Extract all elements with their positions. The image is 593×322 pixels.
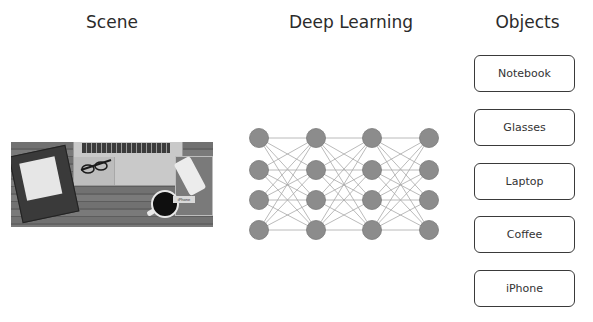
neural-network-diagram [240, 120, 450, 250]
glasses-icon [79, 158, 113, 174]
iphone-tag: iPhone [173, 196, 195, 203]
objects-heading: Objects [476, 12, 579, 32]
network-node [420, 221, 439, 240]
network-node [307, 129, 326, 148]
network-node [250, 191, 269, 210]
network-node [363, 161, 382, 180]
network-node [307, 221, 326, 240]
scene-heading: Scene [62, 12, 162, 32]
network-node [363, 129, 382, 148]
network-node [363, 191, 382, 210]
object-coffee: Coffee [474, 216, 575, 253]
deep-learning-heading: Deep Learning [276, 12, 426, 32]
object-iphone: iPhone [474, 270, 575, 307]
object-laptop: Laptop [474, 163, 575, 200]
network-node [420, 191, 439, 210]
coffee-cup [151, 190, 179, 218]
network-node [307, 191, 326, 210]
notebook-page [19, 156, 62, 201]
object-notebook: Notebook [474, 55, 575, 92]
network-node [250, 161, 269, 180]
laptop-keyboard [82, 143, 170, 153]
network-node [250, 129, 269, 148]
network-node [420, 161, 439, 180]
network-node [420, 129, 439, 148]
scene-image: iPhone [11, 142, 213, 227]
object-glasses: Glasses [474, 109, 575, 146]
network-node [307, 161, 326, 180]
network-node [250, 221, 269, 240]
network-node [363, 221, 382, 240]
